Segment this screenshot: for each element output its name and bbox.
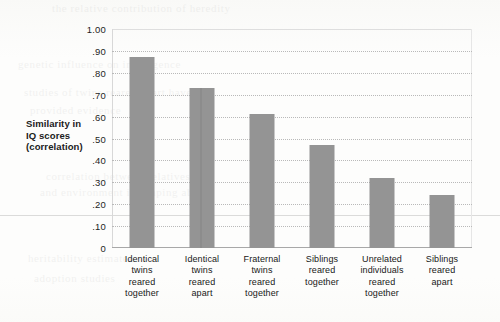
plot-area: 1.00.90.80.70.60.50.40.30.20.100 <box>112 29 472 248</box>
x-axis-category-label-line: twins <box>232 265 292 276</box>
scan-bleedthrough-text: the relative contribution of heredity <box>52 2 500 14</box>
x-axis-category-label-line: twins <box>112 265 172 276</box>
bar <box>130 57 155 248</box>
x-axis-category-label: Siblingsrearedapart <box>412 254 472 288</box>
bar-slot <box>172 29 232 248</box>
y-axis-tick-label: .90 <box>92 45 106 56</box>
x-axis-category-label-line: together <box>292 277 352 288</box>
bar-slot <box>112 29 172 248</box>
x-axis-category-label-line: reared <box>352 277 412 288</box>
y-axis-tick-label: .10 <box>92 221 106 232</box>
y-axis-tick-label: 1.00 <box>87 24 106 35</box>
x-axis-category-label-line: Identical <box>172 254 232 265</box>
x-axis-category-label-line: apart <box>412 277 472 288</box>
x-axis-category-label-line: reared <box>232 277 292 288</box>
y-axis-tick-label: .30 <box>92 177 106 188</box>
x-axis-category-label-line: reared <box>112 277 172 288</box>
x-axis-category-label-line: Identical <box>112 254 172 265</box>
bar-slot <box>232 29 292 248</box>
y-axis-tick-label: 0 <box>101 243 106 254</box>
bars <box>112 29 472 248</box>
bar-slot <box>412 29 472 248</box>
y-axis-tick-label: .50 <box>92 133 106 144</box>
x-axis-category-label: Identicaltwinsrearedapart <box>172 254 232 300</box>
bar <box>190 88 215 248</box>
bar <box>250 114 275 248</box>
x-axis-category-label: Unrelatedindividualsrearedtogether <box>352 254 412 300</box>
x-axis-category-label-line: Fraternal <box>232 254 292 265</box>
x-axis-category-label-line: individuals <box>352 265 412 276</box>
y-axis-tick-label: .20 <box>92 199 106 210</box>
bar-slot <box>352 29 412 248</box>
x-axis-category-label-line: together <box>112 288 172 299</box>
x-axis-category-label: Siblingsrearedtogether <box>292 254 352 288</box>
bar <box>370 178 395 248</box>
x-axis-category-label-line: twins <box>172 265 232 276</box>
y-axis-tick-label: .70 <box>92 89 106 100</box>
y-axis-tick-label: .60 <box>92 111 106 122</box>
x-axis-category-label-line: apart <box>172 288 232 299</box>
x-axis-category-label-line: Siblings <box>412 254 472 265</box>
x-axis-category-label-line: together <box>232 288 292 299</box>
x-axis-category-label-line: reared <box>292 265 352 276</box>
x-axis-category-label-line: reared <box>172 277 232 288</box>
x-axis-category-label: Fraternaltwinsrearedtogether <box>232 254 292 300</box>
bar <box>310 145 335 248</box>
x-axis-category-label-line: together <box>352 288 412 299</box>
chart-figure: the relative contribution of hereditygen… <box>0 0 500 322</box>
x-axis-category-label: Identicaltwinsrearedtogether <box>112 254 172 300</box>
x-axis-category-label-line: reared <box>412 265 472 276</box>
bar <box>430 195 455 248</box>
x-axis-category-label-line: Siblings <box>292 254 352 265</box>
y-axis-tick-label: .40 <box>92 155 106 166</box>
x-axis-category-label-line: Unrelated <box>352 254 412 265</box>
bar-slot <box>292 29 352 248</box>
x-axis-category-labels: IdenticaltwinsrearedtogetherIdenticaltwi… <box>112 254 472 320</box>
y-axis-tick-label: .80 <box>92 67 106 78</box>
